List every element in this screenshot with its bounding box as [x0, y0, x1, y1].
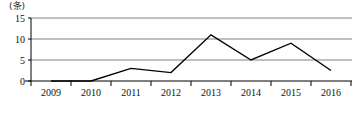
x-axis-label-2010: 2010	[76, 88, 106, 98]
x-axis-label-2013: 2013	[196, 88, 226, 98]
x-axis-label-2009: 2009	[36, 88, 66, 98]
x-axis-label-2011: 2011	[116, 88, 146, 98]
plot-area	[0, 0, 360, 124]
x-axis-label-2015: 2015	[276, 88, 306, 98]
x-axis-label-2016: 2016	[316, 88, 346, 98]
x-axis-label-2012: 2012	[156, 88, 186, 98]
line-chart: (条) 15 10 5 0 2009 2010 2011 2012 2013 2…	[0, 0, 360, 124]
x-axis-label-2014: 2014	[236, 88, 266, 98]
data-series-line	[51, 35, 331, 81]
